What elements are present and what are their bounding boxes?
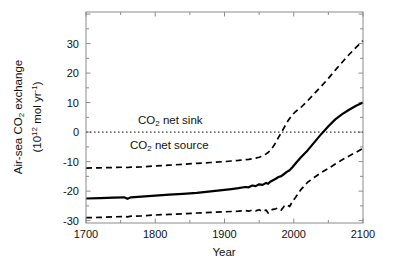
y-tick-label: 0 — [73, 126, 79, 138]
air-sea-co2-exchange-figure: 170018001900200021003020100-10-20-30 Air… — [0, 0, 398, 275]
curve-lower-bound — [86, 148, 363, 217]
y-tick-labels: 3020100-10-20-30 — [63, 38, 79, 227]
plot-frame — [86, 12, 363, 223]
x-axis-title: Year — [212, 246, 235, 258]
y-tick-label: 20 — [67, 67, 79, 79]
x-tick-label: 1700 — [74, 228, 98, 240]
axis-ticks — [86, 12, 363, 223]
y-tick-label: 10 — [67, 97, 79, 109]
y-axis-title: Air-sea CO2 exchange (1012 mol yr-1) — [12, 60, 44, 174]
x-tick-label: 1900 — [212, 228, 236, 240]
x-tick-label: 2000 — [282, 228, 306, 240]
net-sink-annotation: CO2 net sink — [138, 114, 203, 128]
net-source-annotation: CO2 net source — [130, 139, 209, 153]
x-tick-labels: 17001800190020002100 — [74, 228, 375, 240]
y-axis-title-line2: (1012 mol yr-1) — [28, 60, 44, 174]
y-tick-label: -10 — [63, 156, 79, 168]
curve-upper-bound — [86, 41, 363, 169]
y-axis-title-line1: Air-sea CO2 exchange — [12, 60, 28, 174]
x-tick-label: 2100 — [351, 228, 375, 240]
y-tick-label: -20 — [63, 185, 79, 197]
x-tick-label: 1800 — [143, 228, 167, 240]
y-tick-label: 30 — [67, 38, 79, 50]
y-tick-label: -30 — [63, 215, 79, 227]
chart-canvas: 170018001900200021003020100-10-20-30 — [0, 0, 398, 275]
curve-mean — [86, 103, 363, 199]
